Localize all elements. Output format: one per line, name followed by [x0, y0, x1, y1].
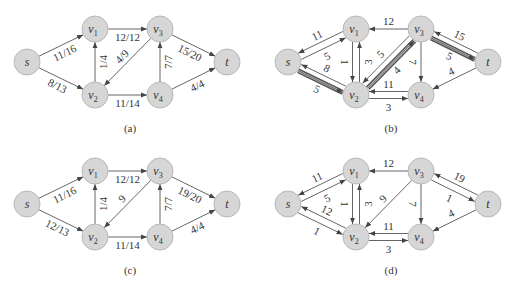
edge-label: 5 — [444, 49, 455, 62]
node-t: t — [475, 191, 501, 217]
edge-label: 5 — [322, 191, 333, 204]
edge-label: 3 — [386, 101, 392, 113]
edge-label: 12/12 — [115, 31, 140, 43]
edge-label: 9 — [116, 192, 129, 205]
edge-label: 15/20 — [176, 42, 204, 64]
edge-label: 4 — [390, 64, 403, 77]
node-s: s — [275, 49, 301, 75]
edge-label: 15 — [452, 27, 468, 43]
edge-label: 7 — [407, 201, 419, 207]
svg-text:s: s — [25, 197, 30, 211]
edge-label: 11 — [310, 169, 325, 184]
node-s: s — [275, 191, 301, 217]
residual-network-d: 5111121312931171194sv1v2v3v4t(d) — [261, 142, 522, 283]
nodes: sv1v2v3v4t — [275, 16, 501, 108]
svg-text:s: s — [286, 197, 291, 211]
edge-label: 11 — [310, 27, 325, 42]
edge-label: 11/14 — [115, 239, 140, 251]
edge-label: 1 — [339, 59, 351, 65]
edge-label: 19 — [452, 169, 468, 185]
node-v3: v3 — [147, 158, 173, 184]
panel-a: 11/168/131/412/124/911/147/715/204/4sv1v… — [0, 0, 261, 141]
node-v1: v1 — [343, 158, 369, 184]
edge-label: 19/20 — [176, 184, 204, 206]
node-v4: v4 — [147, 82, 173, 108]
edge-label: 1/4 — [97, 54, 109, 69]
panel-caption: (c) — [124, 264, 137, 277]
edge-label: 4/9 — [113, 47, 132, 66]
edge-label: 11 — [383, 78, 394, 90]
node-v2: v2 — [82, 224, 108, 250]
edge-label: 1/4 — [97, 196, 109, 211]
edge-t-v4 — [433, 68, 477, 90]
node-v3: v3 — [147, 16, 173, 42]
edge-label: 12 — [319, 202, 334, 218]
edge-label: 5 — [322, 49, 333, 62]
edge-label: 12/13 — [44, 217, 72, 239]
edge-label: 4 — [446, 207, 457, 220]
node-t: t — [214, 191, 240, 217]
edge-v3-v2 — [104, 38, 151, 85]
edge-labels: 5111121312931171194 — [310, 157, 468, 255]
edge-label: 1 — [339, 201, 351, 207]
node-v2: v2 — [343, 82, 369, 108]
svg-text:s: s — [25, 55, 30, 69]
node-s: s — [14, 49, 40, 75]
node-t: t — [475, 49, 501, 75]
edge-label: 7 — [407, 59, 419, 65]
edge-label: 4 — [446, 65, 457, 78]
edge-label: 7/7 — [162, 196, 174, 211]
edge-label: 5 — [374, 47, 387, 60]
edge-label: 12 — [383, 157, 394, 169]
node-v1: v1 — [343, 16, 369, 42]
edge-label: 7/7 — [162, 54, 174, 69]
panel-d: 5111121312931171194sv1v2v3v4t(d) — [261, 142, 522, 283]
edge-label: 3 — [386, 243, 392, 255]
edge-label: 12 — [383, 15, 394, 27]
edge-label: 11/16 — [51, 184, 79, 206]
node-v4: v4 — [147, 224, 173, 250]
node-v2: v2 — [82, 82, 108, 108]
edge-label: 11 — [383, 220, 394, 232]
node-v4: v4 — [408, 224, 434, 250]
flow-network-a: 11/168/131/412/124/911/147/715/204/4sv1v… — [0, 0, 261, 141]
node-s: s — [14, 191, 40, 217]
edge-labels: 11/1612/131/412/12911/147/719/204/4 — [44, 173, 207, 251]
edge-t-v4 — [433, 210, 477, 232]
node-v2: v2 — [343, 224, 369, 250]
edge-label: 8 — [322, 62, 333, 75]
panel-b: 5115813124531175154sv1v2v3v4t(b) — [261, 0, 522, 141]
node-v1: v1 — [82, 16, 108, 42]
edge-label: 9 — [377, 192, 390, 205]
flow-network-c: 11/1612/131/412/12911/147/719/204/4sv1v2… — [0, 142, 261, 283]
residual-network-b: 5115813124531175154sv1v2v3v4t(b) — [261, 0, 522, 141]
panel-caption: (a) — [124, 122, 137, 135]
panel-c: 11/1612/131/412/12911/147/719/204/4sv1v2… — [0, 142, 261, 283]
node-v4: v4 — [408, 82, 434, 108]
edge-label: 11/14 — [115, 97, 140, 109]
panel-caption: (d) — [385, 264, 398, 277]
edge-label: 3 — [362, 59, 374, 65]
edge-v3-v2 — [104, 180, 151, 227]
edge-label: 1 — [312, 224, 322, 237]
edge-label: 5 — [312, 82, 323, 95]
edge-label: 8/13 — [46, 76, 69, 96]
edge-label: 11/16 — [51, 42, 79, 64]
svg-text:s: s — [286, 55, 291, 69]
node-t: t — [214, 49, 240, 75]
node-v1: v1 — [82, 158, 108, 184]
edge-label: 1 — [444, 191, 454, 204]
node-v3: v3 — [408, 158, 434, 184]
edge-labels: 11/168/131/412/124/911/147/715/204/4 — [46, 31, 206, 109]
edge-label: 3 — [362, 201, 374, 207]
node-v3: v3 — [408, 16, 434, 42]
panel-caption: (b) — [385, 122, 398, 135]
edge-label: 12/12 — [115, 173, 140, 185]
